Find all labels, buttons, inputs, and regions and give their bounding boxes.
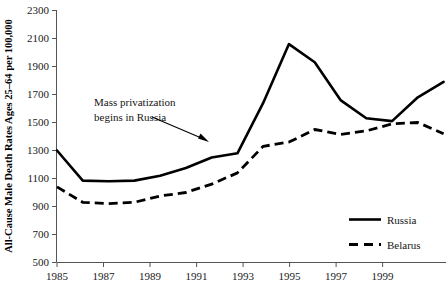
x-tick-label: 1989 [139, 270, 162, 282]
x-axis-ticks [57, 263, 383, 268]
y-tick-label: 1500 [27, 116, 50, 128]
x-tick-label: 1991 [186, 270, 208, 282]
legend-label-russia: Russia [387, 214, 416, 226]
y-tick-label: 1900 [27, 60, 50, 72]
annotation-arrow [152, 117, 209, 142]
chart-legend: Russia Belarus [349, 214, 421, 251]
annotation-line-1: Mass privatization [94, 96, 176, 108]
annotation-line-2: begins in Russia [94, 111, 166, 123]
series-line-belarus [57, 123, 444, 204]
x-tick-label: 1999 [372, 270, 395, 282]
y-tick-label: 500 [33, 256, 50, 268]
legend-label-belarus: Belarus [387, 239, 421, 251]
x-tick-label: 1993 [232, 270, 255, 282]
chart-figure: 2300 2100 1900 1700 1500 1300 1100 900 7… [0, 0, 448, 293]
y-tick-label: 2300 [27, 4, 50, 16]
y-tick-label: 1700 [27, 88, 50, 100]
x-tick-label: 1995 [279, 270, 302, 282]
y-tick-label: 700 [33, 228, 50, 240]
y-tick-label: 1300 [27, 144, 50, 156]
x-tick-label: 1997 [325, 270, 348, 282]
x-tick-label: 1987 [93, 270, 116, 282]
y-tick-label: 900 [33, 200, 50, 212]
line-chart: 2300 2100 1900 1700 1500 1300 1100 900 7… [0, 0, 448, 293]
y-tick-label: 1100 [27, 172, 49, 184]
y-axis-title: All-Cause Male Death Rates Ages 25–64 pe… [3, 19, 14, 253]
y-axis-ticks [52, 11, 57, 263]
y-tick-label: 2100 [27, 32, 50, 44]
x-tick-label: 1985 [46, 270, 69, 282]
